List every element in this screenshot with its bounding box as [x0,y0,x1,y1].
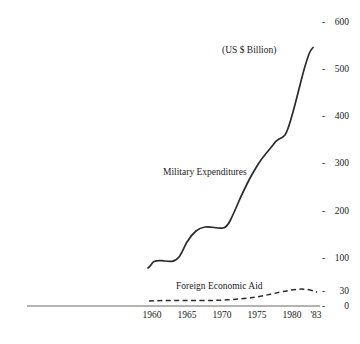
y-tick-200: -200 [322,207,349,217]
x-tick-1960: 1960 [137,311,167,321]
x-tick-1980: 1980 [277,311,307,321]
y-tick-value-100: 100 [327,254,349,264]
aid-series-annotation: Foreign Economic Aid [176,281,263,291]
x-tick-1975: 1975 [242,311,272,321]
y-tick-value-600: 600 [327,18,349,28]
y-tick-value-300: 300 [327,159,349,169]
x-tick-1965: 1965 [172,311,202,321]
y-tick-value-0: 0 [327,302,349,312]
y-tick-400: -400 [322,112,349,122]
military-series-annotation: Military Expenditures [163,167,247,177]
x-tick-1983: '83 [305,311,327,321]
y-tick-value-500: 500 [327,65,349,75]
chart-figure: (US $ Billion) Military Expenditures For… [0,0,360,344]
y-tick-30: -30 [322,287,349,297]
y-tick-value-200: 200 [327,207,349,217]
units-annotation: (US $ Billion) [222,45,276,55]
y-tick-100: -100 [322,254,349,264]
y-tick-value-400: 400 [327,112,349,122]
y-tick-300: -300 [322,159,349,169]
military-expenditures-line [148,48,313,269]
y-tick-value-30: 30 [327,287,349,297]
y-tick-600: -600 [322,18,349,28]
x-tick-1970: 1970 [207,311,237,321]
y-tick-500: -500 [322,65,349,75]
